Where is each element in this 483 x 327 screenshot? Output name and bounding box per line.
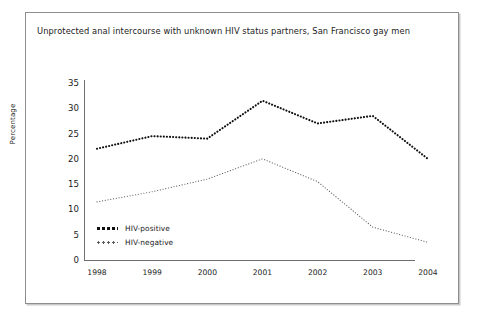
y-tick-label: 15	[68, 179, 79, 189]
y-tick-label: 5	[74, 230, 79, 240]
y-tick-label: 25	[68, 129, 79, 139]
x-tick-label: 2000	[198, 268, 217, 277]
series-line-hiv-positive	[97, 101, 428, 159]
legend-swatch-icon-hiv-positive	[96, 226, 118, 231]
x-tick-label: 2002	[308, 268, 327, 277]
x-tick-label: 1998	[87, 268, 106, 277]
x-tick-label: 2004	[418, 268, 437, 277]
y-tick-label: 10	[68, 204, 79, 214]
legend-label-hiv-positive: HIV-positive	[125, 224, 170, 233]
y-tick-label: 35	[68, 78, 79, 88]
x-tick-label: 2001	[253, 268, 272, 277]
legend-item-hiv-positive: HIV-positive	[96, 221, 173, 235]
y-tick-label: 20	[68, 154, 79, 164]
chart-title: Unprotected anal intercourse with unknow…	[37, 26, 417, 37]
y-tick-label: 0	[74, 255, 79, 265]
legend-swatch-icon-hiv-negative	[96, 241, 118, 244]
x-tick-label: 2003	[363, 268, 382, 277]
y-tick-label: 30	[68, 103, 79, 113]
chart-legend: HIV-positive HIV-negative	[96, 221, 173, 249]
legend-label-hiv-negative: HIV-negative	[125, 238, 173, 247]
y-axis-title: Percentage	[9, 94, 17, 154]
x-tick-label: 1999	[142, 268, 161, 277]
legend-item-hiv-negative: HIV-negative	[96, 235, 173, 249]
